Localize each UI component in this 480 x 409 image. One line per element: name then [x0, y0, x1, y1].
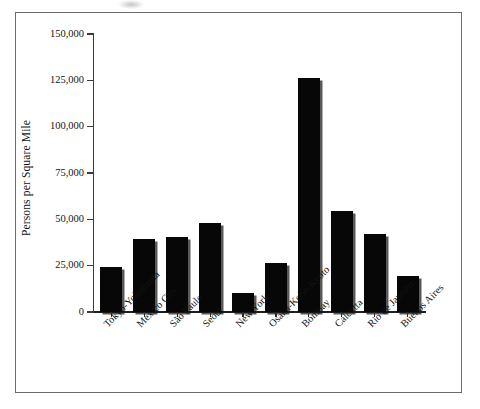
y-axis-tick	[87, 265, 94, 266]
scan-artifact	[118, 0, 144, 9]
bar	[364, 234, 386, 312]
y-axis-tick-label: 0	[22, 307, 84, 318]
y-axis-tick-label: 125,000	[22, 75, 84, 86]
y-axis-tick-label: 50,000	[22, 214, 84, 225]
bar	[331, 211, 353, 312]
y-axis-tick	[87, 172, 94, 173]
y-axis-tick	[87, 219, 94, 220]
y-axis-tick-label: 150,000	[22, 29, 84, 40]
y-axis-tick	[87, 33, 94, 34]
y-axis-tick-label: 25,000	[22, 260, 84, 271]
y-axis-tick	[87, 311, 94, 312]
y-axis-tick-labels: 025,00050,00075,000100,000125,000150,000	[18, 0, 84, 409]
y-axis-tick	[87, 80, 94, 81]
y-axis-tick-label: 100,000	[22, 121, 84, 132]
y-axis-tick	[87, 126, 94, 127]
y-axis-tick-label: 75,000	[22, 168, 84, 179]
